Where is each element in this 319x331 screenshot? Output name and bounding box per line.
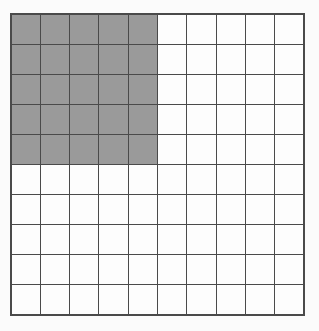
grid-cell-empty[interactable]	[157, 225, 186, 255]
grid-cell-shaded[interactable]	[99, 134, 128, 164]
grid-cell-empty[interactable]	[11, 255, 40, 285]
grid-cell-empty[interactable]	[157, 134, 186, 164]
grid-cell-empty[interactable]	[187, 195, 216, 225]
grid-cell-empty[interactable]	[275, 285, 304, 315]
grid-cell-empty[interactable]	[187, 14, 216, 44]
grid-cell-empty[interactable]	[216, 285, 245, 315]
grid-cell-empty[interactable]	[245, 134, 274, 164]
grid-cell-empty[interactable]	[128, 285, 157, 315]
grid-cell-empty[interactable]	[275, 225, 304, 255]
grid-cell-empty[interactable]	[216, 14, 245, 44]
grid-cell-empty[interactable]	[216, 255, 245, 285]
grid-cell-empty[interactable]	[157, 74, 186, 104]
grid-cell-shaded[interactable]	[40, 134, 69, 164]
grid-cell-empty[interactable]	[245, 74, 274, 104]
grid-cell-empty[interactable]	[245, 44, 274, 74]
grid-cell-empty[interactable]	[216, 44, 245, 74]
grid-cell-empty[interactable]	[216, 164, 245, 194]
grid-cell-shaded[interactable]	[11, 14, 40, 44]
grid-cell-empty[interactable]	[157, 164, 186, 194]
grid-cell-empty[interactable]	[216, 195, 245, 225]
grid-cell-empty[interactable]	[275, 44, 304, 74]
grid-cell-shaded[interactable]	[99, 104, 128, 134]
grid-cell-empty[interactable]	[275, 14, 304, 44]
grid-cell-empty[interactable]	[275, 134, 304, 164]
grid-cell-empty[interactable]	[187, 255, 216, 285]
grid-cell-shaded[interactable]	[40, 14, 69, 44]
grid-cell-empty[interactable]	[275, 74, 304, 104]
grid-cell-empty[interactable]	[11, 285, 40, 315]
grid-cell-shaded[interactable]	[11, 104, 40, 134]
grid-cell-empty[interactable]	[245, 285, 274, 315]
grid-cell-empty[interactable]	[99, 195, 128, 225]
grid-cell-empty[interactable]	[216, 134, 245, 164]
grid-cell-empty[interactable]	[187, 225, 216, 255]
grid-cell-empty[interactable]	[128, 255, 157, 285]
grid-cell-empty[interactable]	[275, 195, 304, 225]
grid-cell-empty[interactable]	[128, 225, 157, 255]
grid-cell-empty[interactable]	[40, 225, 69, 255]
grid-cell-empty[interactable]	[11, 225, 40, 255]
grid-cell-empty[interactable]	[40, 255, 69, 285]
grid-cell-empty[interactable]	[99, 164, 128, 194]
grid-cell-shaded[interactable]	[70, 44, 99, 74]
grid-cell-empty[interactable]	[40, 195, 69, 225]
grid-cell-empty[interactable]	[157, 44, 186, 74]
grid-cell-empty[interactable]	[70, 164, 99, 194]
grid-cell-empty[interactable]	[245, 195, 274, 225]
grid-cell-empty[interactable]	[99, 225, 128, 255]
grid-cell-empty[interactable]	[216, 225, 245, 255]
grid-cell-shaded[interactable]	[40, 104, 69, 134]
grid-cell-empty[interactable]	[157, 255, 186, 285]
grid-cell-shaded[interactable]	[70, 134, 99, 164]
grid-cell-empty[interactable]	[245, 14, 274, 44]
grid-cell-shaded[interactable]	[128, 134, 157, 164]
grid-cell-empty[interactable]	[245, 225, 274, 255]
grid-cell-shaded[interactable]	[11, 44, 40, 74]
grid-cell-empty[interactable]	[245, 164, 274, 194]
grid-cell-shaded[interactable]	[70, 104, 99, 134]
grid-cell-empty[interactable]	[70, 195, 99, 225]
grid-cell-empty[interactable]	[275, 104, 304, 134]
grid-cell-empty[interactable]	[275, 164, 304, 194]
grid-cell-empty[interactable]	[128, 164, 157, 194]
grid-cell-empty[interactable]	[157, 195, 186, 225]
grid-cell-empty[interactable]	[275, 255, 304, 285]
grid-cell-empty[interactable]	[187, 74, 216, 104]
grid-cell-empty[interactable]	[11, 164, 40, 194]
grid-cell-shaded[interactable]	[11, 74, 40, 104]
grid-cell-empty[interactable]	[245, 104, 274, 134]
grid-cell-empty[interactable]	[216, 104, 245, 134]
grid-cell-empty[interactable]	[157, 104, 186, 134]
grid-cell-shaded[interactable]	[128, 44, 157, 74]
grid-cell-empty[interactable]	[187, 134, 216, 164]
grid-cell-shaded[interactable]	[40, 44, 69, 74]
grid-cell-empty[interactable]	[187, 104, 216, 134]
grid-cell-empty[interactable]	[99, 285, 128, 315]
grid-cell-empty[interactable]	[216, 74, 245, 104]
grid-cell-shaded[interactable]	[40, 74, 69, 104]
grid-cell-empty[interactable]	[70, 285, 99, 315]
grid-cell-empty[interactable]	[157, 14, 186, 44]
grid-cell-empty[interactable]	[40, 164, 69, 194]
grid-cell-shaded[interactable]	[70, 14, 99, 44]
grid-cell-empty[interactable]	[245, 255, 274, 285]
grid-cell-empty[interactable]	[70, 255, 99, 285]
grid-cell-shaded[interactable]	[11, 134, 40, 164]
grid-cell-shaded[interactable]	[99, 44, 128, 74]
grid-cell-shaded[interactable]	[128, 74, 157, 104]
grid-cell-empty[interactable]	[157, 285, 186, 315]
grid-cell-empty[interactable]	[11, 195, 40, 225]
grid-cell-empty[interactable]	[70, 225, 99, 255]
grid-cell-empty[interactable]	[99, 255, 128, 285]
grid-cell-empty[interactable]	[40, 285, 69, 315]
grid-cell-shaded[interactable]	[70, 74, 99, 104]
grid-cell-shaded[interactable]	[99, 14, 128, 44]
grid-cell-empty[interactable]	[128, 195, 157, 225]
grid-cell-shaded[interactable]	[128, 104, 157, 134]
grid-cell-empty[interactable]	[187, 44, 216, 74]
grid-cell-shaded[interactable]	[99, 74, 128, 104]
grid-cell-empty[interactable]	[187, 285, 216, 315]
grid-cell-empty[interactable]	[187, 164, 216, 194]
grid-cell-shaded[interactable]	[128, 14, 157, 44]
